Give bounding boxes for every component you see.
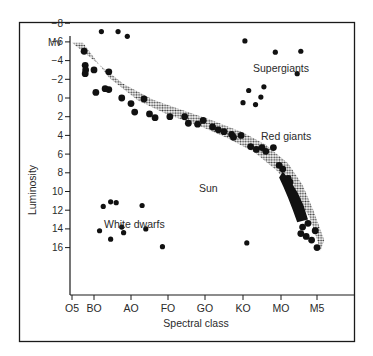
star-point xyxy=(262,148,269,155)
star-point xyxy=(125,34,130,39)
x-axis: O5BOAOFOGOKOMOM5 xyxy=(65,295,354,314)
star-point xyxy=(101,204,106,209)
star-point xyxy=(131,109,138,116)
star-point xyxy=(166,113,173,120)
x-tick-label: KO xyxy=(235,302,250,314)
x-tick-label: O5 xyxy=(65,302,79,314)
y-tick-label: −2 xyxy=(52,74,64,85)
star-point xyxy=(92,89,99,96)
y-axis-label: Luminosity xyxy=(26,164,38,215)
y-tick-label: 12 xyxy=(52,205,64,216)
star-point xyxy=(270,144,277,151)
y-tick-label: 8 xyxy=(57,167,63,178)
star-point xyxy=(152,114,159,121)
annotation-sun: Sun xyxy=(199,182,218,194)
annotations: SupergiantsRed giantsSunWhite dwarfs xyxy=(104,62,311,230)
star-point xyxy=(314,244,321,251)
star-point xyxy=(279,166,286,173)
y-tick-label: 2 xyxy=(57,111,63,122)
x-tick-label: GO xyxy=(197,302,213,314)
y-unit-label: Mv xyxy=(48,37,61,48)
star-point xyxy=(114,200,119,205)
y-tick-label: 16 xyxy=(52,242,64,253)
star-point xyxy=(242,38,247,43)
x-tick-label: BO xyxy=(86,302,101,314)
x-axis-label: Spectral class xyxy=(163,317,228,329)
star-point xyxy=(102,85,109,92)
star-point xyxy=(299,224,306,231)
star-point xyxy=(185,120,192,127)
star-point xyxy=(230,134,237,141)
star-point xyxy=(160,244,165,249)
x-tick-label: FO xyxy=(161,302,176,314)
y-axis: −8−6−4−20246810121416 xyxy=(52,18,70,295)
y-tick-label: 4 xyxy=(57,130,63,141)
star-point xyxy=(194,121,201,128)
star-point xyxy=(140,203,145,208)
y-tick-label: −4 xyxy=(52,55,64,66)
star-point xyxy=(244,240,249,245)
star-point xyxy=(298,49,303,54)
star-point xyxy=(108,237,113,242)
annotation-supergiants: Supergiants xyxy=(253,62,309,74)
star-point xyxy=(121,230,126,235)
star-point xyxy=(105,68,112,75)
annotation-red-giants: Red giants xyxy=(261,130,311,142)
star-point xyxy=(238,132,245,139)
y-tick-label: 14 xyxy=(52,223,64,234)
star-point xyxy=(128,100,135,107)
annotation-white-dwarfs: White dwarfs xyxy=(104,218,165,230)
star-point xyxy=(115,29,120,34)
star-point xyxy=(118,95,125,102)
star-point xyxy=(246,88,251,93)
star-point xyxy=(82,70,89,77)
y-tick-label: 0 xyxy=(57,93,63,104)
star-point xyxy=(146,110,153,117)
y-tick-label: −8 xyxy=(52,18,64,29)
star-point xyxy=(200,117,207,124)
hr-diagram: −8−6−4−20246810121416 O5BOAOFOGOKOMOM5 M… xyxy=(0,0,373,356)
star-point xyxy=(141,96,148,103)
x-tick-label: AO xyxy=(123,302,138,314)
star-point xyxy=(308,237,315,244)
star-point xyxy=(91,67,98,74)
star-point xyxy=(312,227,319,234)
star-point xyxy=(81,48,88,55)
y-tick-label: 10 xyxy=(52,186,64,197)
star-point xyxy=(108,199,113,204)
star-point xyxy=(221,128,228,135)
star-point xyxy=(261,84,266,89)
star-point xyxy=(99,29,104,34)
y-tick-label: 6 xyxy=(57,149,63,160)
star-point xyxy=(273,50,278,55)
star-point xyxy=(253,102,258,107)
series-red-giants xyxy=(240,84,266,107)
star-point xyxy=(240,100,245,105)
star-point xyxy=(181,113,188,120)
x-tick-label: M5 xyxy=(310,302,325,314)
star-point xyxy=(258,94,263,99)
x-tick-label: MO xyxy=(273,302,290,314)
star-point xyxy=(97,228,102,233)
